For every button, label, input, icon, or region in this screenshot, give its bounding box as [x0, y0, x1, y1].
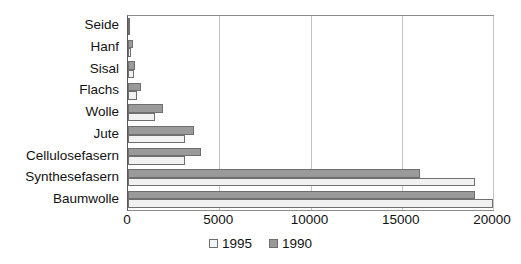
bar-group: [128, 188, 493, 210]
bar-1990: [128, 40, 133, 49]
bar-group: [128, 59, 493, 81]
category-label: Baumwolle: [53, 192, 123, 206]
chart-screenshot: Seide Hanf Sisal Flachs Wolle Jute Cellu…: [0, 0, 521, 264]
bar-series-container: [128, 16, 493, 210]
bar-group: [128, 102, 493, 124]
bar-group: [128, 145, 493, 167]
plot-area: [127, 15, 494, 211]
legend-label-1990: 1990: [282, 236, 312, 251]
category-label: Jute: [93, 127, 123, 141]
x-tick-label: 5000: [203, 212, 233, 227]
category-label: Wolle: [85, 105, 123, 119]
x-tick-label: 20000: [473, 212, 511, 227]
bar-1995: [128, 199, 493, 208]
bar-1990: [128, 191, 475, 200]
bar-1995: [128, 91, 137, 100]
bar-group: [128, 16, 493, 38]
category-label: Sisal: [90, 62, 123, 76]
category-label: Cellulosefasern: [26, 149, 123, 163]
bar-1995: [128, 113, 155, 122]
bar-1990: [128, 61, 135, 70]
category-axis-labels: Seide Hanf Sisal Flachs Wolle Jute Cellu…: [0, 14, 123, 210]
legend-swatch-1990: [269, 239, 278, 248]
bar-group: [128, 167, 493, 189]
category-label: Hanf: [90, 40, 123, 54]
bar-group: [128, 38, 493, 60]
legend-item-1990: 1990: [269, 236, 312, 251]
x-tick-label: 10000: [291, 212, 329, 227]
bar-1990: [128, 104, 163, 113]
bar-group: [128, 81, 493, 103]
bar-1995: [128, 156, 185, 165]
category-label: Flachs: [79, 83, 123, 97]
bar-1990: [128, 169, 420, 178]
bar-1990: [128, 148, 201, 157]
legend-label-1995: 1995: [222, 236, 252, 251]
bar-group: [128, 124, 493, 146]
gridline: [493, 16, 494, 210]
category-label: Seide: [84, 18, 123, 32]
x-tick-label: 0: [123, 212, 131, 227]
bar-1995: [128, 135, 185, 144]
bar-1995: [128, 48, 131, 57]
legend-item-1995: 1995: [209, 236, 252, 251]
x-tick-label: 15000: [382, 212, 420, 227]
bar-1995: [128, 27, 130, 36]
legend-swatch-1995: [209, 239, 218, 248]
category-label: Synthesefasern: [25, 170, 123, 184]
bar-1995: [128, 70, 134, 79]
bar-1990: [128, 126, 194, 135]
bar-1990: [128, 18, 130, 27]
x-axis-tick-labels: 05000100001500020000: [127, 212, 492, 230]
bar-1990: [128, 83, 141, 92]
chart-legend: 1995 1990: [0, 236, 521, 251]
bar-1995: [128, 178, 475, 187]
